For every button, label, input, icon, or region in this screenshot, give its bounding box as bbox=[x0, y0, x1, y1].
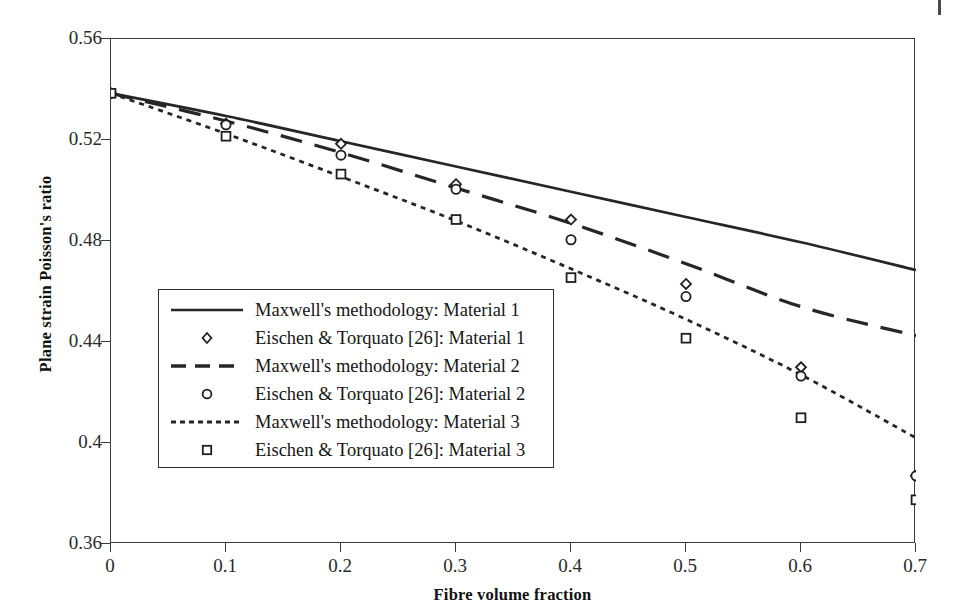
data-point-circle bbox=[796, 371, 805, 380]
data-point-square bbox=[222, 132, 231, 141]
y-tick-label: 0.56 bbox=[36, 28, 102, 47]
legend-label: Eischen & Torquato [26]: Material 3 bbox=[255, 441, 525, 460]
legend-label: Maxwell's methodology: Material 3 bbox=[255, 413, 520, 432]
data-point-circle bbox=[451, 185, 460, 194]
dotted-line-icon bbox=[170, 415, 244, 429]
y-axis-title: Plane strain Poisson's ratio bbox=[36, 104, 56, 444]
dashed-line-icon bbox=[170, 359, 244, 373]
legend-key-dashed-line bbox=[159, 352, 255, 380]
legend-label: Eischen & Torquato [26]: Material 1 bbox=[255, 329, 525, 348]
legend-item: Maxwell's methodology: Material 1 bbox=[159, 296, 553, 324]
y-tick-mark bbox=[101, 240, 110, 241]
scan-artifact bbox=[938, 0, 941, 15]
x-tick-mark bbox=[340, 543, 341, 552]
x-tick-label: 0.1 bbox=[195, 556, 255, 575]
y-tick-mark bbox=[101, 341, 110, 342]
chart-legend: Maxwell's methodology: Material 1Eischen… bbox=[158, 289, 554, 468]
data-point-circle bbox=[566, 235, 575, 244]
legend-label: Eischen & Torquato [26]: Material 2 bbox=[255, 385, 525, 404]
data-point-square bbox=[682, 334, 691, 343]
series-line-solid bbox=[111, 93, 916, 270]
data-point-square bbox=[912, 495, 916, 504]
data-point-diamond bbox=[681, 279, 691, 289]
legend-item: Eischen & Torquato [26]: Material 3 bbox=[159, 436, 553, 464]
x-tick-mark bbox=[570, 543, 571, 552]
y-tick-mark bbox=[101, 139, 110, 140]
square-marker-icon bbox=[197, 442, 217, 458]
diamond-marker-icon bbox=[197, 330, 217, 346]
legend-item: Maxwell's methodology: Material 3 bbox=[159, 408, 553, 436]
data-point-square bbox=[567, 273, 576, 282]
y-tick-label: 0.36 bbox=[36, 533, 102, 552]
x-tick-label: 0.6 bbox=[770, 556, 830, 575]
legend-key-solid-line bbox=[159, 296, 255, 324]
data-point-circle bbox=[681, 292, 690, 301]
legend-key-circle-marker bbox=[159, 380, 255, 408]
data-point-square bbox=[111, 89, 115, 98]
legend-key-diamond-marker bbox=[159, 324, 255, 352]
y-tick-mark bbox=[101, 442, 110, 443]
legend-item: Eischen & Torquato [26]: Material 1 bbox=[159, 324, 553, 352]
x-tick-mark bbox=[225, 543, 226, 552]
legend-key-square-marker bbox=[159, 436, 255, 464]
circle-marker-icon bbox=[197, 386, 217, 402]
legend-label: Maxwell's methodology: Material 1 bbox=[255, 301, 520, 320]
x-tick-mark bbox=[110, 543, 111, 552]
x-tick-label: 0.5 bbox=[655, 556, 715, 575]
x-tick-label: 0 bbox=[80, 556, 140, 575]
x-tick-label: 0.4 bbox=[540, 556, 600, 575]
solid-line-icon bbox=[170, 303, 244, 317]
legend-item: Eischen & Torquato [26]: Material 2 bbox=[159, 380, 553, 408]
legend-label: Maxwell's methodology: Material 2 bbox=[255, 357, 520, 376]
y-tick-mark bbox=[101, 543, 110, 544]
data-point-square bbox=[337, 170, 346, 179]
x-tick-mark bbox=[455, 543, 456, 552]
data-point-circle bbox=[221, 120, 230, 129]
data-point-square bbox=[797, 413, 806, 422]
legend-item: Maxwell's methodology: Material 2 bbox=[159, 352, 553, 380]
data-point-circle bbox=[336, 151, 345, 160]
poisson-ratio-chart: 0.560.520.480.440.40.36 00.10.20.30.40.5… bbox=[0, 0, 965, 613]
x-tick-label: 0.2 bbox=[310, 556, 370, 575]
data-point-circle bbox=[911, 471, 916, 480]
x-tick-mark bbox=[685, 543, 686, 552]
x-tick-label: 0.7 bbox=[885, 556, 945, 575]
data-point-square bbox=[452, 215, 461, 224]
x-tick-mark bbox=[915, 543, 916, 552]
legend-key-dotted-line bbox=[159, 408, 255, 436]
x-tick-label: 0.3 bbox=[425, 556, 485, 575]
x-tick-mark bbox=[800, 543, 801, 552]
y-tick-mark bbox=[101, 38, 110, 39]
x-axis-title: Fibre volume fraction bbox=[110, 585, 915, 605]
